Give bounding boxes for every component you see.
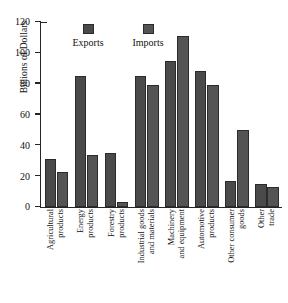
x-category-label: Agriculturalproducts (41, 209, 71, 303)
y-tick: 60 (35, 113, 41, 114)
legend-label: Exports (72, 37, 103, 48)
x-category-label: Automotiveproducts (192, 209, 222, 303)
y-tick-label: 40 (20, 139, 30, 150)
y-tick-label: 80 (20, 78, 30, 89)
y-tick-label: 0 (25, 201, 30, 212)
legend-item-imports: Imports (124, 24, 172, 48)
legend-swatch (143, 24, 154, 34)
bar-exports (75, 76, 87, 207)
x-category-label: Othertrade (252, 209, 282, 303)
chart-legend: ExportsImports (64, 24, 172, 48)
y-tick-label: 60 (20, 108, 30, 119)
bar-group (222, 22, 252, 207)
bar-imports (237, 130, 249, 207)
x-category-label: Forestryproducts (102, 209, 132, 303)
bar-group (71, 22, 101, 207)
bar-imports (267, 187, 279, 207)
x-category-label: Other consumergoods (222, 209, 252, 303)
y-tick: 100 (35, 52, 41, 53)
y-tick-label: 20 (20, 170, 30, 181)
bar-exports (105, 153, 117, 207)
x-category-label: Energyproducts (71, 209, 101, 303)
bar-group (102, 22, 132, 207)
bar-imports (87, 155, 99, 207)
bar-exports (135, 76, 147, 207)
bar-imports (177, 36, 189, 207)
bar-exports (195, 71, 207, 207)
bar-imports (207, 85, 219, 207)
y-tick-label: 120 (15, 16, 30, 27)
bar-group (162, 22, 192, 207)
bar-group (192, 22, 222, 207)
bar-group (252, 22, 282, 207)
legend-item-exports: Exports (64, 24, 112, 48)
bar-imports (57, 172, 69, 207)
bar-exports (45, 159, 57, 207)
plot-area: 020406080100120 (40, 22, 282, 207)
bar-group (41, 22, 71, 207)
x-category-label: Machineryand equipment (162, 209, 192, 303)
legend-label: Imports (132, 37, 163, 48)
y-tick: 40 (35, 144, 41, 145)
bar-imports (147, 85, 159, 207)
bar-imports (117, 202, 129, 207)
bar-chart: Billions of Dollars 020406080100120 Agri… (0, 0, 288, 303)
x-category-label: Industrial goodsand materials (132, 209, 162, 303)
bar-series-container (41, 22, 282, 207)
y-tick: 0 (35, 206, 41, 207)
y-tick: 80 (35, 82, 41, 83)
legend-swatch (83, 24, 94, 34)
x-axis-category-labels: AgriculturalproductsEnergyproductsForest… (41, 209, 283, 303)
bar-exports (225, 181, 237, 207)
y-tick-label: 100 (15, 47, 30, 58)
y-tick: 20 (35, 175, 41, 176)
bar-group (132, 22, 162, 207)
bar-exports (165, 61, 177, 207)
y-tick: 120 (35, 21, 41, 22)
bar-exports (255, 184, 267, 207)
